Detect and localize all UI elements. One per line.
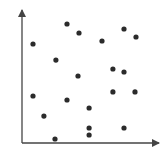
data-points — [30, 21, 138, 141]
data-point — [110, 66, 115, 71]
data-point — [52, 136, 57, 141]
data-point — [87, 132, 92, 137]
data-point — [121, 26, 126, 31]
data-point — [133, 34, 138, 39]
data-point — [53, 58, 58, 63]
data-point — [99, 38, 104, 43]
data-point — [64, 97, 69, 102]
data-point — [75, 73, 80, 78]
data-point — [110, 89, 115, 94]
scatter-chart — [0, 0, 163, 150]
data-point — [41, 114, 46, 119]
data-point — [64, 21, 69, 26]
data-point — [30, 93, 35, 98]
data-point — [87, 105, 92, 110]
data-point — [132, 89, 137, 94]
data-point — [76, 30, 81, 35]
data-point — [30, 41, 35, 46]
data-point — [121, 125, 126, 130]
data-point — [87, 125, 92, 130]
data-point — [121, 69, 126, 74]
